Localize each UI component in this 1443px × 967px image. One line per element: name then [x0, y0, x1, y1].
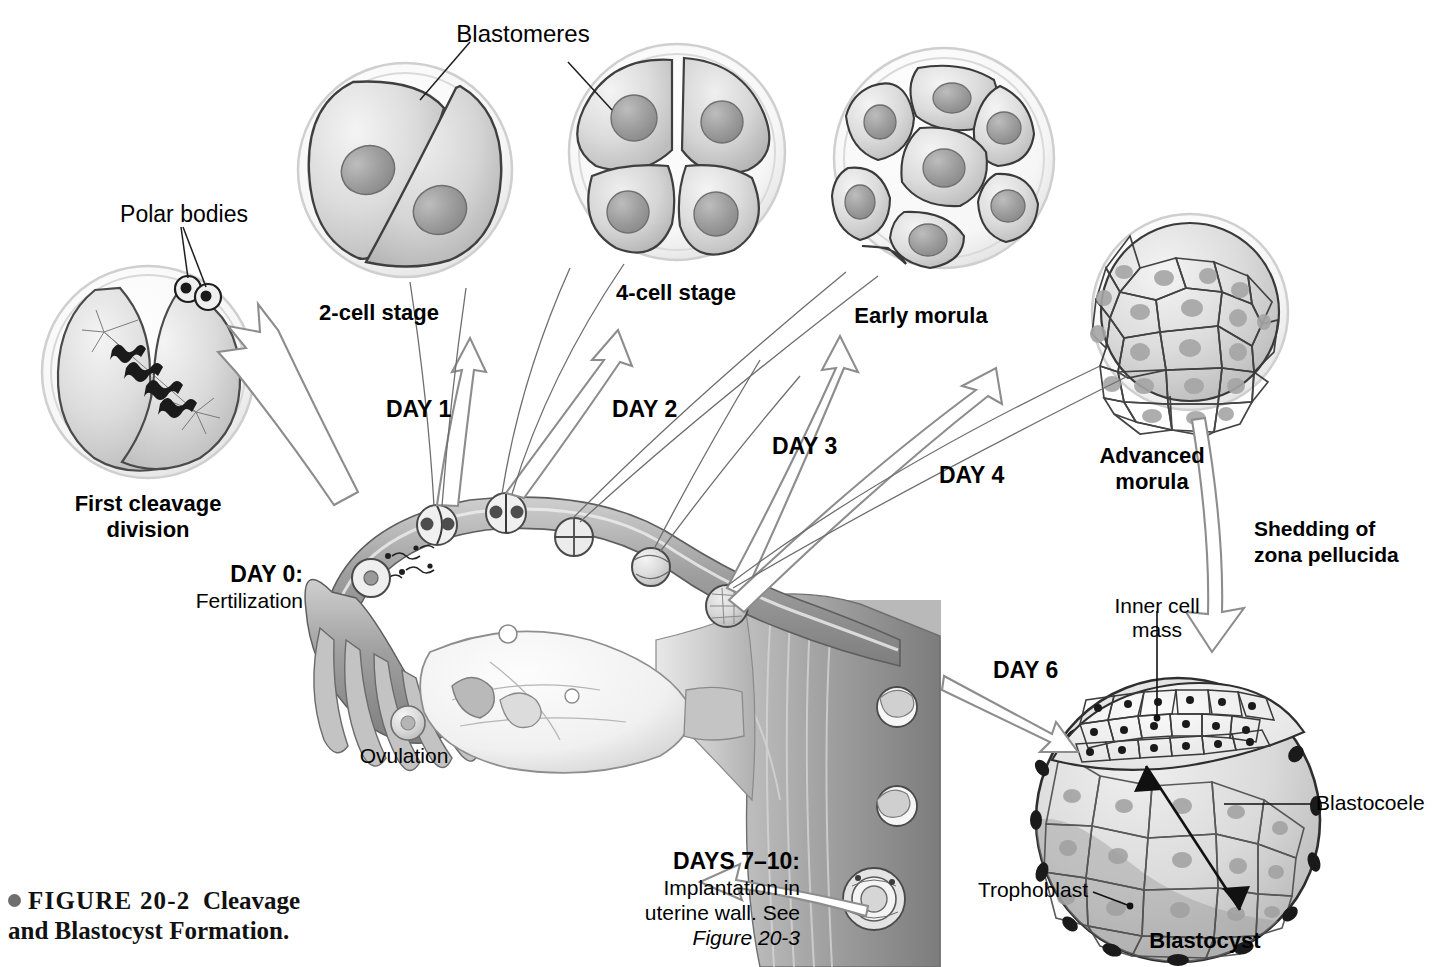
figure-title-line1: Cleavage [203, 887, 300, 914]
day6-label: DAY 6 [993, 657, 1058, 683]
tube-embryo-morula-early [555, 518, 593, 556]
first-cleavage-label-line1: First cleavage [75, 491, 222, 516]
shedding-label-line2: zona pellucida [1254, 543, 1399, 567]
blastocyst-illustration [1030, 611, 1323, 966]
inner-cell-mass-label-line1: Inner cell [1114, 594, 1199, 618]
day4-arrow [729, 368, 1002, 612]
anatomical-illustration [0, 0, 1443, 967]
ovulated-oocyte [391, 706, 425, 740]
zygote-fertilization [352, 559, 390, 597]
implantation-figure-ref: Figure 20-3 [693, 926, 800, 950]
uterus-blastocyst-free [877, 687, 917, 727]
two-cell-stage-label: 2-cell stage [319, 300, 439, 325]
figure-number: FIGURE 20-2 [28, 887, 191, 914]
trophoblast-label: Trophoblast [978, 878, 1088, 902]
shedding-label-line1: Shedding of [1254, 517, 1375, 541]
implantation-see-word: See [763, 901, 800, 924]
four-cell-stage-label: 4-cell stage [616, 280, 736, 305]
advanced-morula-illustration [1090, 214, 1288, 436]
day2-label: DAY 2 [612, 396, 677, 422]
days-7-10-label: DAYS 7–10: [673, 848, 800, 874]
early-morula-illustration [832, 48, 1054, 268]
uterus-blastocyst-attaching [877, 786, 917, 826]
figure-title-line2: and Blastocyst Formation. [8, 917, 289, 944]
four-cell-stage-illustration [568, 44, 785, 260]
bullet-icon [8, 894, 21, 907]
figure-canvas: Blastomeres Polar bodies 2-cell stage 4-… [0, 0, 1443, 967]
advanced-morula-label-line1: Advanced [1099, 443, 1204, 468]
tube-embryo-4cell [486, 493, 526, 533]
implantation-label-line2: uterine wall. See [645, 901, 800, 925]
early-morula-label: Early morula [854, 303, 987, 328]
blastocoele-label: Blastocoele [1316, 791, 1425, 815]
inner-cell-mass-label-line2: mass [1132, 618, 1182, 642]
tube-embryo-2cell [417, 505, 457, 545]
implantation-text: uterine wall. [645, 901, 757, 924]
first-cleavage-label-line2: division [106, 517, 189, 542]
polar-bodies-label: Polar bodies [120, 201, 248, 227]
tube-embryo-morula [632, 548, 670, 586]
day6-arrow [942, 676, 1078, 752]
implantation-label-line1: Implantation in [663, 876, 800, 900]
day4-label: DAY 4 [939, 462, 1004, 488]
advanced-morula-label-line2: morula [1115, 469, 1188, 494]
day3-label: DAY 3 [772, 433, 837, 459]
blastocyst-label: Blastocyst [1149, 928, 1260, 953]
fertilization-label: Fertilization [196, 589, 303, 613]
two-cell-stage-illustration [298, 42, 512, 277]
blastomeres-label: Blastomeres [456, 20, 589, 47]
day1-label: DAY 1 [386, 396, 451, 422]
ovulation-label: Ovulation [360, 744, 449, 768]
day0-label: DAY 0: [230, 561, 303, 587]
uterus-blastocyst-implanting [843, 868, 905, 930]
figure-caption: FIGURE 20-2 Cleavage and Blastocyst Form… [8, 886, 428, 946]
